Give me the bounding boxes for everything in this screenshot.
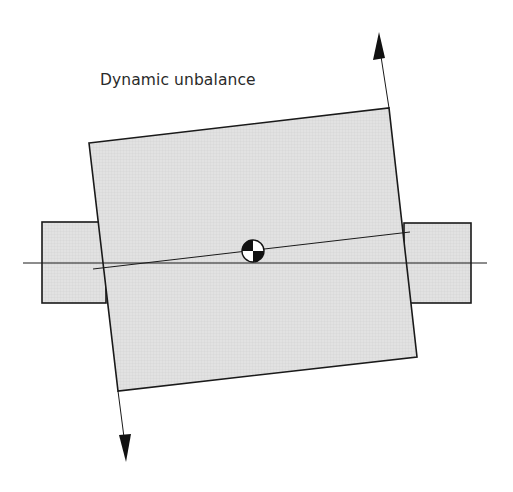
center-of-mass-icon [242,240,264,262]
diagram-canvas [0,0,513,492]
diagram-title: Dynamic unbalance [100,71,256,89]
unbalance-force-arrow-up-shaft [380,50,389,108]
arrow-down-head-icon [119,434,131,462]
arrow-up-head-icon [373,32,385,60]
dynamic-unbalance-diagram: Dynamic unbalance [0,0,513,492]
